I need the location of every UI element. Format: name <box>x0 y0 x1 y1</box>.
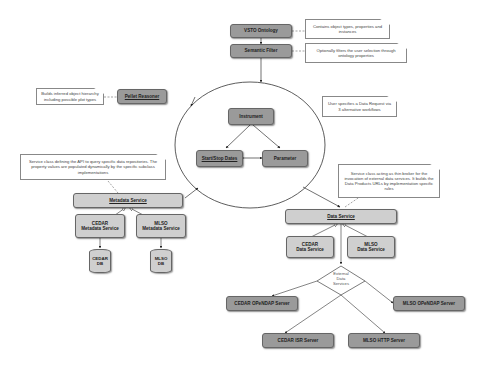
mlso-metadata-service-node: MLSO Metadata Service <box>136 214 186 238</box>
instrument-label: Instrument <box>239 114 263 120</box>
cedar-isr-server-node: CEDAR ISR Server <box>262 333 334 348</box>
workflow-ellipse <box>175 82 325 208</box>
ontology-note: Contains object types, properties and in… <box>305 19 390 39</box>
mlso-db-cylinder: MLSO DB <box>150 249 172 273</box>
vsto-ontology-label: VSTO Ontology <box>244 28 278 34</box>
mlso-data-service-node: MLSO Data Service <box>347 236 395 258</box>
start-stop-dates-label: Start/Stop Dates <box>202 156 238 162</box>
cedar-opendap-server-node: CEDAR OPeNDAP Server <box>226 296 298 311</box>
semantic-filter-node: Semantic Filter <box>230 44 292 58</box>
semantic-filter-label: Semantic Filter <box>245 48 278 54</box>
instrument-node: Instrument <box>228 108 274 125</box>
start-stop-dates-node: Start/Stop Dates <box>196 150 243 167</box>
pellet-reasoner-node: Pellet Reasoner <box>117 89 167 104</box>
parameter-node: Parameter <box>262 150 308 167</box>
data-service-note: Service class acting as thin broker for … <box>338 164 440 198</box>
data-service-label: Data Service <box>327 214 355 220</box>
cedar-metadata-service-node: CEDAR Metadata Service <box>75 214 125 238</box>
cedar-db-cylinder: CEDAR DB <box>89 249 111 273</box>
parameter-label: Parameter <box>274 156 296 162</box>
metadata-service-node: Metadata Service <box>73 193 183 208</box>
user-note: User specifies a Data Request via 3 alte… <box>322 96 397 117</box>
vsto-ontology-node: VSTO Ontology <box>230 24 292 38</box>
mlso-opendap-server-node: MLSO OPeNDAP Server <box>393 296 465 311</box>
metadata-note: Service class defining the API to query … <box>20 154 166 180</box>
data-service-node: Data Service <box>285 209 397 224</box>
external-data-services-label: External Data Services <box>326 271 356 286</box>
metadata-service-label: Metadata Service <box>109 198 147 204</box>
cedar-data-service-node: CEDAR Data Service <box>286 236 334 258</box>
pellet-reasoner-label: Pellet Reasoner <box>125 94 159 100</box>
mlso-http-server-node: MLSO HTTP Server <box>348 333 420 348</box>
filter-note: Optionally filters the user selection th… <box>305 43 407 63</box>
reasoner-note: Builds inferred object hierarchy includi… <box>36 88 104 105</box>
